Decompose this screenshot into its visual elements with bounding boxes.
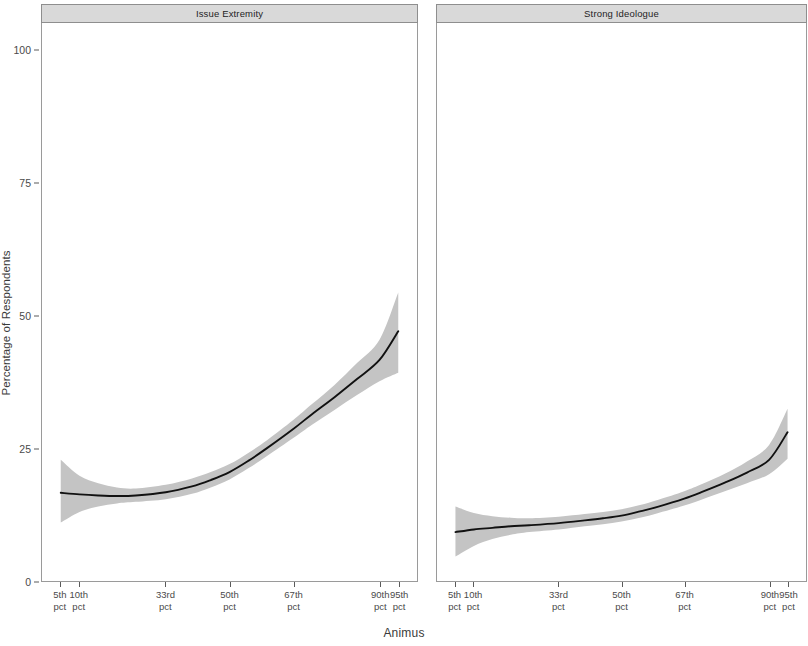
facet-strip-label-0: Issue Extremity (41, 4, 418, 23)
x-axis-tick-label-top: 5th (448, 589, 461, 601)
x-axis-tick-label-top: 10th (464, 589, 483, 601)
x-axis-tick-label-top: 33rd (549, 589, 568, 601)
x-axis-tick-label: 50thpct (612, 589, 631, 612)
y-axis-tick-label: 0 (25, 576, 31, 588)
x-axis-tick-label-top: 90th (371, 589, 390, 601)
x-axis-tick-label-top: 50th (220, 589, 239, 601)
x-axis-title: Animus (0, 626, 808, 640)
x-axis-tick-label-top: 67th (284, 589, 303, 601)
x-axis-tick-label-top: 33rd (156, 589, 175, 601)
y-axis-tick-label: 50 (19, 310, 31, 322)
x-axis-tick-mark (685, 582, 686, 587)
x-axis-tick-mark (165, 582, 166, 587)
x-axis-tick-label-bottom: pct (69, 601, 88, 613)
x-axis-tick-label: 67thpct (675, 589, 694, 612)
x-axis-tick-label: 33rdpct (156, 589, 175, 612)
figure-root: Percentage of Respondents 0255075100 Iss… (0, 0, 808, 646)
x-axis-tick-label: 33rdpct (549, 589, 568, 612)
x-axis-tick-label-bottom: pct (612, 601, 631, 613)
x-axis-tick-label: 95thpct (779, 589, 798, 612)
x-axis-tick-mark (230, 582, 231, 587)
x-axis-tick-label-top: 95th (390, 589, 409, 601)
x-axis-tick-label-bottom: pct (675, 601, 694, 613)
x-axis-tick-mark (622, 582, 623, 587)
x-axis-tick-label: 10thpct (69, 589, 88, 612)
trend-line-0 (61, 331, 399, 496)
x-axis-tick-label: 95thpct (390, 589, 409, 612)
x-axis-tick-mark (455, 582, 456, 587)
facet-panel-strong-ideologue: Strong Ideologue (436, 4, 807, 582)
x-axis-tick-label-top: 10th (69, 589, 88, 601)
x-axis-tick-label-bottom: pct (53, 601, 66, 613)
x-axis-tick-label-bottom: pct (284, 601, 303, 613)
x-axis-tick-mark (399, 582, 400, 587)
x-axis-tick-mark (380, 582, 381, 587)
x-axis-tick-label-bottom: pct (549, 601, 568, 613)
x-axis-tick-label: 90thpct (371, 589, 390, 612)
y-axis-tick-mark (34, 582, 39, 583)
x-axis-tick-label-top: 95th (779, 589, 798, 601)
y-axis-tick-mark (34, 448, 39, 449)
x-axis-tick-label-top: 50th (612, 589, 631, 601)
x-axis-tick-label-top: 5th (53, 589, 66, 601)
x-axis-tick-label-bottom: pct (779, 601, 798, 613)
x-axis-tick-label-bottom: pct (464, 601, 483, 613)
x-axis-panel-1: 5thpct10thpct33rdpct50thpct67thpct90thpc… (436, 582, 807, 622)
y-axis-tick-label: 75 (19, 177, 31, 189)
x-axis-tick-label: 90thpct (761, 589, 780, 612)
plot-area-0 (41, 23, 418, 582)
facet-strip-label-1: Strong Ideologue (436, 4, 807, 23)
x-axis-tick-label: 67thpct (284, 589, 303, 612)
plot-svg-1 (437, 23, 806, 581)
y-axis: 0255075100 (0, 0, 40, 646)
y-axis-tick-label: 100 (13, 44, 31, 56)
x-axis-tick-label-bottom: pct (371, 601, 390, 613)
plot-svg-0 (42, 23, 417, 581)
x-axis-tick-mark (60, 582, 61, 587)
y-axis-tick-mark (34, 182, 39, 183)
plot-area-1 (436, 23, 807, 582)
x-axis-tick-label-bottom: pct (156, 601, 175, 613)
y-axis-tick-mark (34, 49, 39, 50)
x-axis-tick-mark (788, 582, 789, 587)
x-axis-tick-label: 10thpct (464, 589, 483, 612)
x-axis-tick-label-bottom: pct (390, 601, 409, 613)
y-axis-tick-label: 25 (19, 443, 31, 455)
x-axis-tick-mark (294, 582, 295, 587)
x-axis-panel-0: 5thpct10thpct33rdpct50thpct67thpct90thpc… (41, 582, 418, 622)
x-axis-tick-label-top: 90th (761, 589, 780, 601)
x-axis-tick-mark (473, 582, 474, 587)
facet-panel-issue-extremity: Issue Extremity (41, 4, 418, 582)
x-axis-tick-label: 50thpct (220, 589, 239, 612)
y-axis-tick-mark (34, 315, 39, 316)
x-axis-tick-mark (79, 582, 80, 587)
confidence-ribbon-0 (61, 292, 399, 522)
x-axis-tick-label-bottom: pct (761, 601, 780, 613)
x-axis-tick-label: 5thpct (448, 589, 461, 612)
x-axis-tick-label-bottom: pct (448, 601, 461, 613)
confidence-ribbon-1 (455, 409, 787, 557)
x-axis-tick-mark (558, 582, 559, 587)
x-axis-tick-mark (770, 582, 771, 587)
x-axis-tick-label-top: 67th (675, 589, 694, 601)
x-axis-tick-label-bottom: pct (220, 601, 239, 613)
x-axis-tick-label: 5thpct (53, 589, 66, 612)
